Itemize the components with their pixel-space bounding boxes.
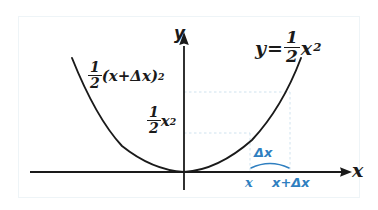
x-axis-label: x [352,161,363,180]
upper-value-label: 1 2 (x+Δx) 2 [88,61,165,91]
upper-numerator: 1 [88,60,102,76]
x-axis-arrowhead [340,167,352,177]
lower-exponent: 2 [170,117,176,126]
equation-denominator: 2 [284,48,300,66]
lower-fraction: 1 2 [147,105,161,135]
upper-denominator: 2 [88,76,102,91]
upper-fraction: 1 2 [88,60,102,90]
equation-exponent: 2 [313,42,321,54]
equation-lhs: y [255,39,266,58]
equation-fraction: 1 2 [284,29,300,66]
lower-denominator: 2 [147,121,161,136]
lower-numerator: 1 [147,105,161,121]
delta-x-label: Δx [254,146,272,159]
y-axis-label: y [174,25,185,42]
y-axis [179,32,189,190]
equation-label: y = 1 2 x 2 [255,30,321,67]
tick-label-x: x [245,176,253,189]
tick-label-x-plus-delta-x: x+Δx [272,176,310,189]
equation-equals: = [267,39,283,58]
upper-expression: (x+Δx) [102,69,158,84]
lower-value-label: 1 2 x 2 [147,106,176,136]
upper-exponent: 2 [158,72,164,81]
figure-container: y x y = 1 2 x 2 1 2 (x+Δx) 2 1 [0,0,378,210]
delta-x-brace [251,164,289,169]
lower-expression: x [161,114,170,129]
equation-variable: x [301,39,312,58]
guide-lines [184,92,290,172]
